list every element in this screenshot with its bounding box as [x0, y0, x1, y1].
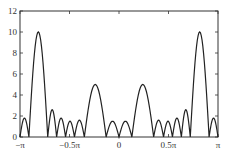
data-series-line — [20, 32, 218, 137]
y-tick-label: 6 — [13, 69, 18, 79]
y-tick-label: 8 — [13, 48, 18, 58]
line-chart: 024681012 −π−0.5π00.5ππ — [0, 0, 227, 158]
x-tick-label: 0 — [117, 140, 122, 150]
x-tick-label: π — [216, 140, 221, 150]
x-tick-label: −0.5π — [59, 140, 80, 150]
y-tick-label: 12 — [8, 6, 17, 16]
y-tick-label: 4 — [13, 90, 18, 100]
x-tick-label: −π — [15, 140, 25, 150]
y-tick-label: 2 — [13, 111, 18, 121]
x-tick-label: 0.5π — [161, 140, 177, 150]
y-tick-label: 10 — [8, 27, 18, 37]
